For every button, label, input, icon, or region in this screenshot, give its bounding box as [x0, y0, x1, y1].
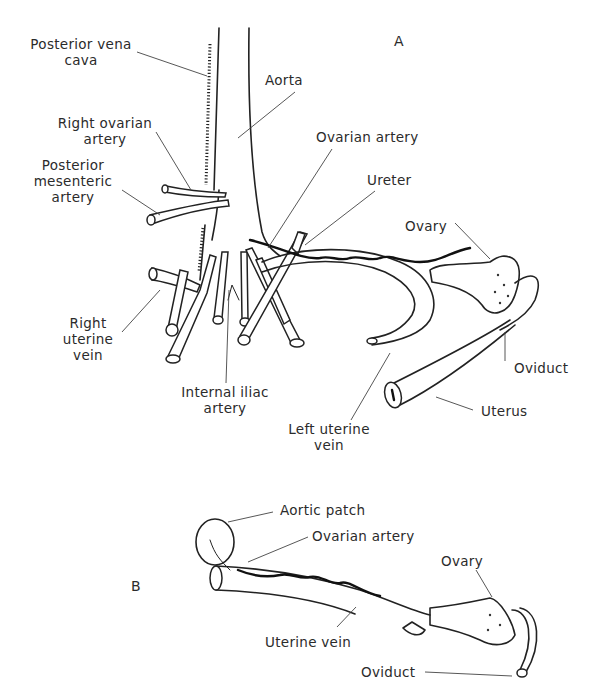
iliac-branches — [149, 232, 307, 363]
aorta — [212, 28, 280, 256]
label-uterus: Uterus — [481, 403, 527, 419]
ovary-b — [430, 598, 515, 645]
label-aorta: Aorta — [265, 72, 303, 88]
panel-label-b: B — [131, 578, 141, 594]
label-posterior-mesenteric-artery-line1: Posterior — [28, 157, 118, 173]
label-right-uterine-vein-line1: Right — [58, 315, 118, 331]
label-internal-iliac-artery: Internal iliac artery — [170, 384, 280, 416]
panel-label-a: A — [394, 33, 404, 49]
oviduct-b — [512, 608, 537, 677]
label-uterine-vein: Uterine vein — [265, 634, 351, 650]
leader-lines — [122, 52, 512, 676]
label-ovary-b: Ovary — [441, 553, 483, 569]
aortic-patch — [196, 519, 234, 570]
label-right-ovarian-artery-line1: Right ovarian — [50, 115, 160, 131]
label-right-uterine-vein-line2: uterine — [58, 331, 118, 347]
label-right-uterine-vein: Right uterine vein — [58, 315, 118, 363]
panel-a-drawing — [147, 28, 538, 410]
uterus — [382, 320, 515, 410]
label-oviduct-b: Oviduct — [361, 664, 415, 680]
ovary-a — [430, 256, 519, 313]
right-ovarian-artery — [162, 185, 226, 197]
label-left-uterine-vein-line1: Left uterine — [279, 421, 379, 437]
label-right-uterine-vein-line3: vein — [58, 347, 118, 363]
label-posterior-mesenteric-artery-line3: artery — [28, 189, 118, 205]
label-posterior-vena-cava-line2: cava — [22, 52, 140, 68]
label-right-ovarian-artery: Right ovarian artery — [50, 115, 160, 147]
label-ovary-a: Ovary — [405, 218, 447, 234]
label-ovarian-artery-b: Ovarian artery — [312, 528, 414, 544]
label-aortic-patch: Aortic patch — [280, 502, 365, 518]
label-posterior-mesenteric-artery-line2: mesenteric — [28, 173, 118, 189]
label-right-ovarian-artery-line2: artery — [50, 131, 160, 147]
uterine-vein-b — [210, 566, 430, 635]
label-posterior-vena-cava: Posterior vena cava — [22, 36, 140, 68]
posterior-vena-cava — [199, 28, 219, 280]
label-ureter: Ureter — [367, 172, 411, 188]
label-oviduct-a: Oviduct — [514, 360, 568, 376]
label-left-uterine-vein-line2: vein — [279, 437, 379, 453]
label-internal-iliac-artery-line2: artery — [170, 400, 280, 416]
label-posterior-mesenteric-artery: Posterior mesenteric artery — [28, 157, 118, 205]
label-internal-iliac-artery-line1: Internal iliac — [170, 384, 280, 400]
ovarian-artery-b — [238, 570, 380, 596]
label-ovarian-artery-a: Ovarian artery — [316, 129, 418, 145]
label-posterior-vena-cava-line1: Posterior vena — [22, 36, 140, 52]
label-left-uterine-vein: Left uterine vein — [279, 421, 379, 453]
